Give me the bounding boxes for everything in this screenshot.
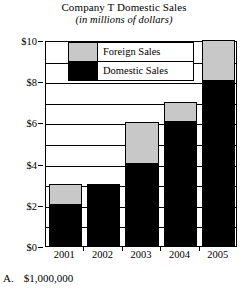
bar-segment-domestic: [49, 205, 82, 246]
y-tick-mark: [38, 41, 43, 42]
legend-label-domestic-sales: Domestic Sales: [98, 62, 193, 80]
black-swatch-icon: [69, 62, 98, 80]
chart-subtitle: (in millions of dollars): [0, 14, 248, 25]
y-tick-label: $4: [27, 159, 38, 170]
x-axis: 20012002200320042005: [45, 249, 237, 265]
y-tick-label: $0: [27, 242, 38, 253]
y-tick-label: $8: [27, 77, 38, 88]
bar-group: [202, 40, 235, 246]
y-axis: $0$2$4$6$8$10: [0, 41, 42, 247]
answer-choice-a[interactable]: A.$1,000,000: [3, 272, 73, 284]
x-tick-label: 2001: [54, 249, 75, 260]
y-tick-mark: [38, 82, 43, 83]
answer-choice-value: $1,000,000: [24, 272, 74, 284]
bar-segment-domestic: [202, 81, 235, 246]
y-tick-mark: [38, 123, 43, 124]
x-tick-mark: [160, 247, 161, 251]
chart-legend: Foreign Sales Domestic Sales: [68, 42, 194, 81]
y-tick-label: $10: [21, 36, 37, 47]
x-tick-label: 2004: [169, 249, 190, 260]
y-tick-mark: [38, 247, 43, 248]
gray-swatch-icon: [69, 43, 98, 61]
x-tick-mark: [122, 247, 123, 251]
x-tick-label: 2002: [92, 249, 113, 260]
x-tick-label: 2005: [207, 249, 228, 260]
y-tick-mark: [38, 206, 43, 207]
y-tick-label: $6: [27, 118, 38, 129]
x-tick-mark: [199, 247, 200, 251]
legend-item-foreign-sales: Foreign Sales: [69, 43, 193, 61]
answer-choice-letter: A.: [3, 272, 14, 284]
chart-title: Company T Domestic Sales: [0, 2, 248, 14]
legend-item-domestic-sales: Domestic Sales: [69, 61, 193, 80]
legend-label-foreign-sales: Foreign Sales: [98, 43, 193, 61]
bar-segment-domestic: [87, 184, 120, 246]
bar-segment-foreign: [164, 102, 197, 123]
bar-segment-foreign: [49, 184, 82, 205]
bar-segment-domestic: [164, 122, 197, 246]
y-tick-mark: [38, 165, 43, 166]
bar-segment-foreign: [202, 40, 235, 81]
bar-segment-domestic: [125, 164, 158, 246]
x-tick-label: 2003: [131, 249, 152, 260]
bar-segment-foreign: [125, 122, 158, 163]
y-tick-label: $2: [27, 200, 38, 211]
x-tick-mark: [83, 247, 84, 251]
chart-title-block: Company T Domestic Sales (in millions of…: [0, 2, 248, 25]
